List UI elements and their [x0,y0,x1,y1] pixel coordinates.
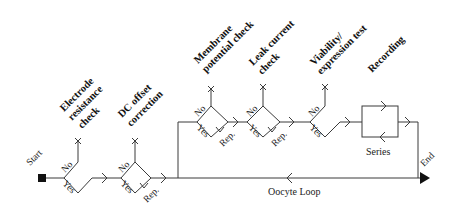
yes-label: Yes [247,122,264,139]
leak-current-node: No Yes Rep. Leak current check [244,18,310,149]
loop-entry-line [178,122,197,178]
yes-label: Yes [195,122,212,139]
yes-label: Yes [61,178,78,195]
oocyte-loop: Oocyte Loop [178,172,430,197]
step-title-line: Recording [366,33,407,74]
no-label: No [116,159,131,174]
yes-label: Yes [119,178,136,195]
oocyte-protocol-flowchart: Start No Yes Electrode resistance check … [0,0,459,210]
viability-test-node: No Yes Viability/ expression test [306,22,369,139]
no-label: No [192,103,207,118]
no-label: No [244,103,259,118]
electrode-check-node: No Yes Electrode resistance check [58,75,121,195]
membrane-potential-node: No Yes Rep. Membrane potential check [192,18,256,148]
end-label: End [418,150,436,168]
yes-label: Yes [308,122,325,139]
dc-offset-node: No Yes Rep. DC offset correction [116,81,178,204]
end-arrow-icon [420,172,430,184]
series-label: Series [366,146,391,157]
recording-node: Series Recording [362,33,418,178]
no-label: No [59,159,74,174]
start-node [38,174,46,182]
no-label: No [306,103,321,118]
start-label: Start [24,147,44,167]
loop-label: Oocyte Loop [268,186,321,197]
